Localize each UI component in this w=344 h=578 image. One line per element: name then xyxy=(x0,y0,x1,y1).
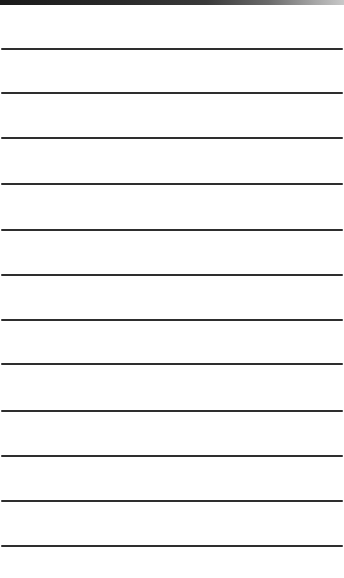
ruled-line xyxy=(1,500,343,502)
ruled-page xyxy=(0,0,344,578)
ruled-line xyxy=(1,183,343,185)
ruled-line xyxy=(1,48,343,50)
ruled-line xyxy=(1,137,343,139)
top-edge-band xyxy=(0,0,344,5)
ruled-line xyxy=(1,410,343,412)
ruled-line xyxy=(1,92,343,94)
ruled-line xyxy=(1,363,343,365)
ruled-line xyxy=(1,545,343,547)
ruled-line xyxy=(1,319,343,321)
ruled-line xyxy=(1,274,343,276)
ruled-line xyxy=(1,455,343,457)
ruled-line xyxy=(1,229,343,231)
